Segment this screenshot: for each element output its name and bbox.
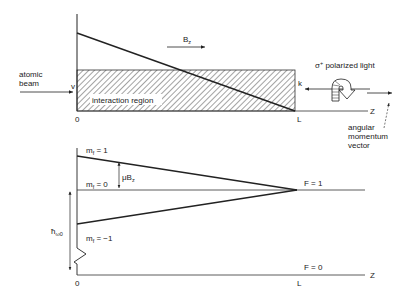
bottom-z-axis-label: Z: [370, 271, 375, 280]
f0-label: F = 0: [304, 263, 323, 272]
bottom-panel: Z F = 0 0 L mf = 1 mf = 0 mf = −1 μBz F …: [51, 146, 375, 288]
angular-momentum-label-3: vector: [348, 141, 370, 150]
mf-zero-label: mf = 0: [86, 180, 108, 190]
mf-minus-one-line: [77, 190, 297, 224]
mf-plus-one-line: [77, 156, 297, 190]
angular-momentum-pointer: [384, 103, 389, 128]
mf-minus-one-label: mf = −1: [86, 234, 113, 244]
k-label: k: [298, 79, 303, 88]
top-origin-label: 0: [75, 115, 80, 124]
bz-label: Bz: [183, 35, 191, 45]
velocity-label: v: [71, 82, 75, 91]
zeeman-slower-diagram: interaction region Z Bz atomic beam v 0 …: [0, 0, 408, 300]
atomic-beam-label-1: atomic: [19, 70, 43, 79]
polarized-light-label: σ+ polarized light: [315, 60, 376, 70]
top-panel: interaction region Z Bz atomic beam v 0 …: [19, 14, 392, 150]
zeeman-split-label: μBz: [122, 173, 135, 183]
angular-momentum-label-2: momentum: [348, 132, 388, 141]
interaction-region-label: interaction region: [92, 96, 153, 105]
f1-label: F = 1: [304, 179, 323, 188]
circular-polarization-icon: [332, 79, 355, 101]
bottom-origin-label: 0: [75, 279, 80, 288]
top-z-axis-label: Z: [370, 107, 375, 116]
mf-plus-one-label: mf = 1: [86, 146, 108, 156]
angular-momentum-label-1: angular: [348, 123, 375, 132]
bottom-end-label: L: [297, 279, 302, 288]
hyperfine-splitting-label: ħω0: [51, 227, 63, 237]
top-end-label: L: [297, 115, 302, 124]
bottom-vertical-axis: [74, 148, 86, 275]
atomic-beam-label-2: beam: [19, 79, 39, 88]
